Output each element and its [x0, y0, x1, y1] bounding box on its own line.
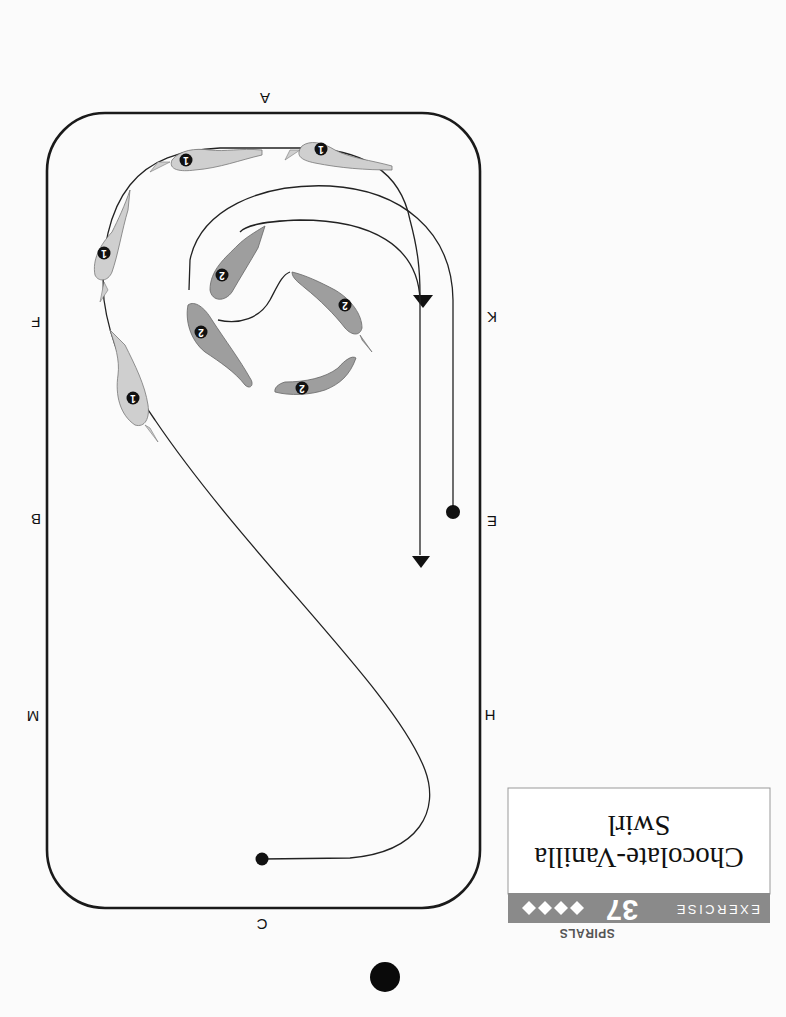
letter-c: C [256, 916, 267, 933]
horse-rider1: 1 [94, 190, 130, 302]
svg-text:1: 1 [183, 155, 189, 166]
svg-text:1: 1 [101, 248, 107, 259]
rider1-start-dot [256, 853, 269, 866]
horse-rider2: 2 [210, 226, 265, 299]
exercise-page: A K E H C M B F 1 1 [0, 0, 786, 1017]
page-marker-dot [370, 962, 400, 992]
exercise-title-line2: Swirl [608, 810, 671, 842]
svg-text:2: 2 [299, 383, 305, 394]
rider1-path [103, 148, 430, 859]
svg-text:1: 1 [318, 144, 324, 155]
svg-text:1: 1 [130, 393, 136, 404]
exercise-number: 37 [606, 894, 638, 926]
exercise-label: EXERCISE [674, 902, 760, 917]
letter-m: M [27, 708, 40, 725]
letter-a: A [260, 90, 270, 107]
svg-text:2: 2 [219, 270, 225, 281]
arena-letters: A K E H C M B F [27, 90, 497, 933]
letter-f: F [31, 314, 40, 331]
horse-rider2: 2 [187, 303, 252, 387]
horse-rider1: 1 [150, 149, 262, 172]
letter-k: K [487, 309, 497, 326]
exercise-title-box: Chocolate-Vanilla Swirl EXERCISE 37 SPIR… [508, 788, 770, 940]
horse-rider1: 1 [285, 143, 392, 171]
rider2-start-dot [446, 505, 460, 519]
letter-b: B [31, 511, 41, 528]
letter-e: E [487, 513, 497, 530]
svg-text:2: 2 [198, 327, 204, 338]
rider2-end-arrow [412, 556, 430, 568]
letter-h: H [485, 707, 496, 724]
svg-text:2: 2 [342, 300, 348, 311]
horse-rider2: 2 [275, 357, 356, 394]
rider2-horses: 2 2 2 2 [187, 226, 372, 395]
horse-rider1: 1 [110, 330, 158, 442]
exercise-title-line1: Chocolate-Vanilla [534, 842, 744, 874]
chapter-label: SPIRALS [559, 926, 615, 940]
rider1-end-arrow [413, 295, 433, 308]
horse-rider2: 2 [292, 272, 372, 352]
